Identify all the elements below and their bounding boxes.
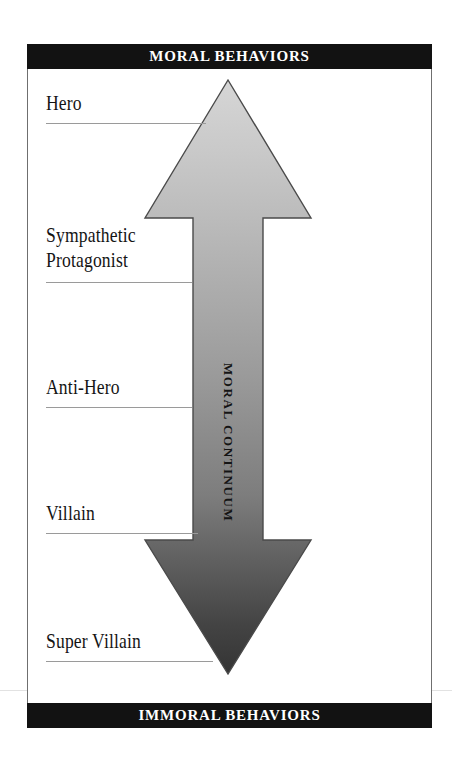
stage-villain: Villain: [46, 500, 107, 525]
stage-sympathetic-protagonist: Sympathetic Protagonist: [46, 222, 158, 272]
banner-top-label: MORAL BEHAVIORS: [149, 48, 310, 65]
stage-villain-label: Villain: [46, 500, 95, 525]
stage-villain-rule: [46, 533, 198, 534]
banner-moral-behaviors: MORAL BEHAVIORS: [27, 44, 432, 69]
banner-immoral-behaviors: IMMORAL BEHAVIORS: [27, 703, 432, 728]
moral-continuum-arrow: MORAL CONTINUUM: [139, 78, 317, 678]
arrow-graphic: [139, 78, 317, 678]
scanned-page: MORAL BEHAVIORS IMMORAL BEHAVIORS: [0, 0, 452, 757]
stage-super-villain: Super Villain: [46, 628, 165, 653]
stage-sympathetic-protagonist-label: Sympathetic Protagonist: [46, 222, 136, 272]
stage-super-villain-label: Super Villain: [46, 628, 141, 653]
stage-hero: Hero: [46, 90, 91, 115]
stage-hero-label: Hero: [46, 90, 82, 115]
stage-hero-rule: [46, 123, 206, 124]
stage-sympathetic-protagonist-rule: [46, 282, 192, 283]
stage-anti-hero-rule: [46, 407, 192, 408]
stage-anti-hero: Anti-Hero: [46, 374, 138, 399]
stage-anti-hero-label: Anti-Hero: [46, 374, 120, 399]
banner-bottom-label: IMMORAL BEHAVIORS: [138, 707, 320, 724]
stage-super-villain-rule: [46, 661, 213, 662]
